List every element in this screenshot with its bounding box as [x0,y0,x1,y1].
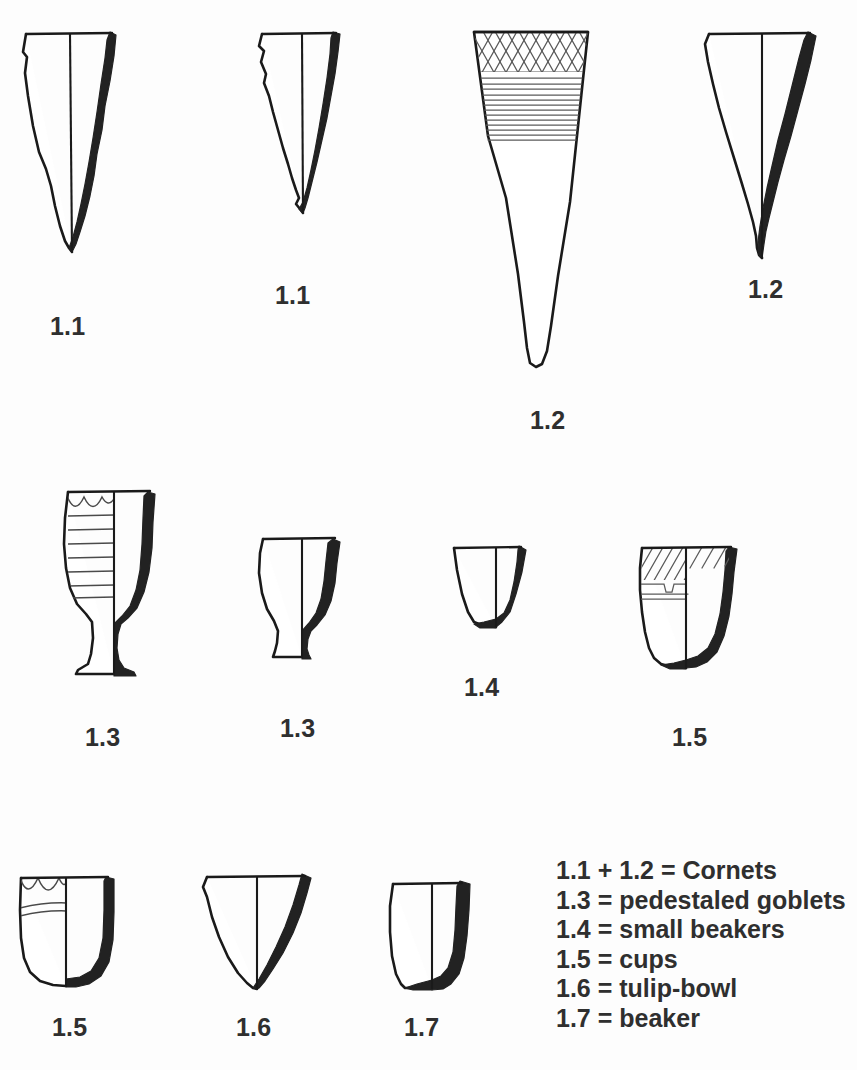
vessel-outline-left [64,492,114,674]
legend-entry-cornets: 1.1 + 1.2 = Cornets [556,856,856,886]
pottery-typology-plate: 1.1 1.1 [0,0,857,1070]
legend-entry-beaker: 1.7 = beaker [556,1004,856,1034]
cornet-profile-svg [6,26,136,276]
decoration-band-line [70,597,116,598]
vessel-axis-line [70,34,72,252]
goblet-profile-svg [48,482,178,692]
vessel-drawing-goblet-1-3-short [249,531,369,691]
vessel-rim-line [642,547,731,548]
figure-label-1-6: 1.6 [236,1013,271,1042]
figure-label-1-7: 1.7 [404,1013,439,1042]
figure-label-1-3-short: 1.3 [280,714,315,743]
vessel-rim-line [263,538,335,539]
legend-entry-beakers: 1.4 = small beakers [556,915,856,945]
vessel-rim-line [207,876,305,877]
figure-label-1-2-right: 1.2 [748,275,783,304]
vessel-outline-left [705,34,762,258]
vessel-drawing-cornet-1-1-small [251,26,361,256]
decoration-band-line [63,543,116,544]
vessel-section-right [686,547,737,668]
vessel-rim-line [454,547,521,548]
decoration-band-line [64,557,116,558]
vessel-section-right [253,874,311,989]
legend-entry-goblets: 1.3 = pedestaled goblets [556,886,856,916]
vessel-outline-left [259,539,302,657]
legend-entry-tulip-bowl: 1.6 = tulip-bowl [556,974,856,1004]
vessel-drawing-small-beaker-1-4 [444,540,554,670]
vessel-outline-left [23,34,72,252]
vessel-rim-line [26,33,112,34]
vessel-rim-line [393,883,462,884]
beaker-profile-svg [381,876,491,1016]
figure-label-1-4: 1.4 [464,673,499,702]
figure-label-1-5-round: 1.5 [52,1013,87,1042]
vessel-rim-line [68,491,150,492]
vessel-drawing-cornet-1-2-right [692,26,832,276]
decoration-band-line [63,529,116,530]
cornet-profile-svg [251,26,361,256]
vessel-section-right [302,539,340,659]
cup-profile-svg [10,872,130,1012]
figure-label-1-1-large: 1.1 [50,312,85,341]
vessel-section-right [69,32,116,252]
vessel-drawing-beaker-1-7 [381,876,491,1016]
vessel-drawing-cornet-1-2-large [466,26,616,376]
vessel-outline-left [203,877,257,989]
cornet-profile-svg [466,26,616,376]
vessel-drawing-tulip-bowl-1-6 [187,869,327,1009]
legend-entry-cups: 1.5 = cups [556,945,856,975]
vessel-rim-line [21,877,108,878]
typology-legend: 1.1 + 1.2 = Cornets 1.3 = pedestaled gob… [556,856,856,1033]
decoration-band-line [64,515,116,516]
decoration-band-line [67,585,116,586]
goblet-profile-svg [249,531,369,691]
cup-profile-svg [628,538,758,698]
figure-label-1-3-tall: 1.3 [85,723,120,752]
beaker-profile-svg [444,540,554,670]
vessel-outline-left [259,34,303,213]
vessel-section-right [114,492,155,676]
cornet-profile-svg [692,26,832,276]
vessel-section-right [432,881,470,990]
vessel-drawing-cup-1-5-round [10,872,130,1012]
figure-label-1-2-large: 1.2 [530,406,565,435]
vessel-section-right [66,877,114,987]
vessel-rim-line [262,33,336,34]
vessel-outline-left [390,884,432,988]
vessel-drawing-goblet-1-3-tall [48,482,178,692]
vessel-drawing-cup-1-5-flat [628,538,758,698]
vessel-axis-line [302,34,303,213]
decoration-wavy-line [67,496,114,507]
vessel-outline [474,32,588,367]
tulip-bowl-profile-svg [187,869,327,1009]
vessel-rim-line [709,33,810,34]
vessel-outline-left [454,548,496,627]
figure-label-1-1-small: 1.1 [275,281,310,310]
vessel-drawing-cornet-1-1-large [6,26,136,276]
vessel-section-right [496,546,526,627]
figure-label-1-5-flat: 1.5 [672,723,707,752]
decoration-band-line [65,571,116,572]
decoration-arc-festoon [20,878,68,890]
vessel-section-right [299,32,340,213]
vessel-outline-left [20,878,66,986]
vessel-section-right [758,32,816,258]
